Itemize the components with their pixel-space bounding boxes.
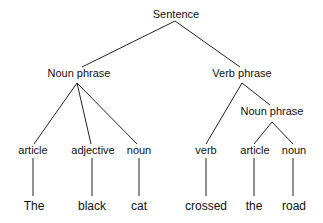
node-noun-2: noun [282, 144, 306, 157]
word-the-2: the [246, 200, 263, 213]
node-article-2: article [240, 144, 269, 157]
node-adjective: adjective [71, 144, 114, 157]
parse-tree-diagram: Sentence Noun phrase Verb phrase Noun ph… [0, 0, 323, 223]
node-verb-phrase: Verb phrase [212, 67, 271, 80]
word-road: road [282, 200, 306, 213]
node-article: article [18, 144, 47, 157]
node-sentence: Sentence [153, 8, 199, 21]
node-noun-phrase-2: Noun phrase [241, 105, 304, 118]
node-noun: noun [127, 144, 151, 157]
word-the: The [24, 200, 45, 213]
node-verb: verb [195, 144, 216, 157]
word-black: black [78, 200, 106, 213]
word-crossed: crossed [185, 200, 227, 213]
node-noun-phrase: Noun phrase [48, 67, 111, 80]
word-cat: cat [131, 200, 147, 213]
